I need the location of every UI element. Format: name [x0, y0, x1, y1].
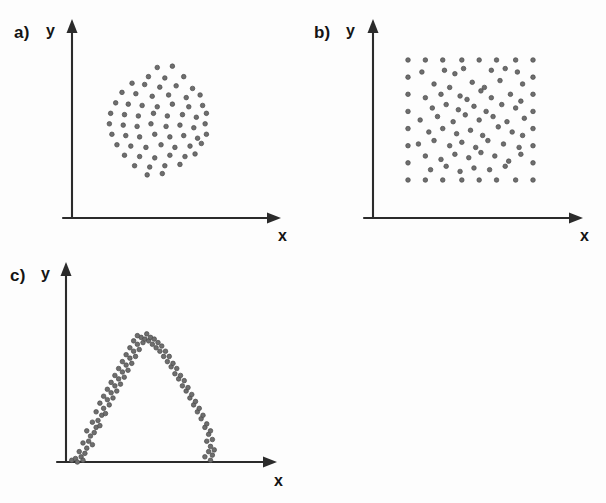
data-point — [122, 153, 127, 158]
data-point — [84, 446, 89, 451]
data-point — [126, 102, 131, 107]
data-point — [84, 429, 89, 434]
data-point — [204, 422, 209, 427]
data-point — [129, 361, 134, 366]
data-point — [210, 453, 215, 458]
data-point — [136, 114, 141, 119]
data-point — [113, 384, 118, 389]
panel-a-label: a) — [14, 24, 30, 41]
data-point — [491, 114, 496, 119]
data-point — [208, 444, 213, 449]
x-axis-arrow-icon — [569, 213, 583, 224]
data-point — [496, 125, 501, 130]
data-point — [406, 143, 411, 148]
data-point — [181, 133, 186, 138]
data-point — [406, 126, 411, 131]
data-point — [458, 94, 463, 99]
data-point — [406, 161, 411, 166]
data-point — [432, 138, 437, 143]
data-point — [111, 396, 116, 401]
data-point — [116, 377, 121, 382]
data-point — [122, 112, 127, 117]
data-point — [439, 157, 444, 162]
data-point — [165, 114, 170, 119]
data-point — [121, 123, 126, 128]
data-point — [149, 122, 154, 127]
data-point — [463, 113, 468, 118]
scatter-points-b — [406, 58, 536, 183]
data-point — [145, 173, 150, 178]
data-point — [116, 366, 121, 371]
data-point — [90, 442, 95, 447]
data-point — [144, 332, 149, 337]
data-point — [81, 458, 86, 463]
data-point — [456, 107, 461, 112]
data-point — [428, 167, 433, 172]
data-point — [184, 95, 189, 100]
data-point — [126, 368, 131, 373]
data-point — [503, 66, 508, 71]
data-point — [420, 70, 425, 75]
data-point — [494, 178, 499, 183]
data-point — [418, 118, 423, 123]
data-point — [152, 337, 157, 342]
data-point — [531, 58, 536, 63]
data-point — [144, 145, 149, 150]
data-point — [163, 163, 168, 168]
data-point — [154, 345, 159, 350]
figure-scatter-distributions: a) y x b) y x c) y — [0, 0, 606, 503]
data-point — [156, 340, 161, 345]
data-point — [142, 82, 147, 87]
data-point — [439, 92, 444, 97]
data-point — [472, 104, 477, 109]
data-point — [123, 133, 128, 138]
data-point — [105, 397, 110, 402]
data-point — [183, 154, 188, 159]
data-point — [513, 178, 518, 183]
data-point — [166, 93, 171, 98]
data-point — [150, 94, 155, 99]
data-point — [460, 58, 465, 63]
data-point — [186, 385, 191, 390]
y-axis-arrow-icon — [61, 262, 72, 276]
data-point — [519, 99, 524, 104]
data-point — [190, 86, 195, 91]
scatter-points-a — [107, 64, 209, 177]
data-point — [442, 68, 447, 73]
data-point — [150, 342, 155, 347]
data-point — [88, 434, 93, 439]
data-point — [487, 167, 492, 172]
panel-c-x-axis-label: x — [274, 473, 283, 489]
data-point — [192, 125, 197, 130]
data-point — [155, 104, 160, 109]
data-point — [146, 74, 151, 79]
data-point — [505, 119, 510, 124]
data-point — [484, 109, 489, 114]
data-point — [98, 423, 103, 428]
data-point — [472, 166, 477, 171]
data-point — [435, 114, 440, 119]
data-point — [440, 126, 445, 131]
data-point — [204, 111, 209, 116]
panel-a-y-axis-label: y — [46, 23, 55, 39]
data-point — [531, 161, 536, 166]
data-point — [103, 411, 108, 416]
data-point — [83, 451, 88, 456]
data-point — [124, 363, 129, 368]
data-point — [531, 92, 536, 97]
data-point — [508, 92, 513, 97]
data-point — [122, 375, 127, 380]
data-point — [470, 80, 475, 85]
data-point — [460, 178, 465, 183]
data-point — [477, 178, 482, 183]
panel-b-label: b) — [314, 24, 330, 41]
data-point — [513, 58, 518, 63]
panel-a: a) y x — [0, 0, 303, 252]
data-point — [206, 449, 211, 454]
data-point — [479, 89, 484, 94]
data-point — [210, 437, 215, 442]
panel-c-y-axis-label: y — [41, 266, 50, 282]
data-point — [444, 164, 449, 169]
data-point — [188, 144, 193, 149]
data-point — [90, 420, 95, 425]
